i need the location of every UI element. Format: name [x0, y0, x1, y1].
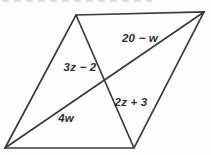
parallelogram-figure	[0, 0, 211, 155]
segment-label-20-minus-w: 20 − w	[122, 32, 158, 44]
diagonal-bottom-left-to-top-right	[5, 12, 204, 148]
diagram-canvas: 20 − w 3z − 2 2z + 3 4w	[0, 0, 211, 155]
segment-label-2z-plus-3: 2z + 3	[115, 96, 148, 108]
segment-label-3z-minus-2: 3z − 2	[64, 61, 97, 73]
segment-label-4w: 4w	[58, 112, 74, 124]
